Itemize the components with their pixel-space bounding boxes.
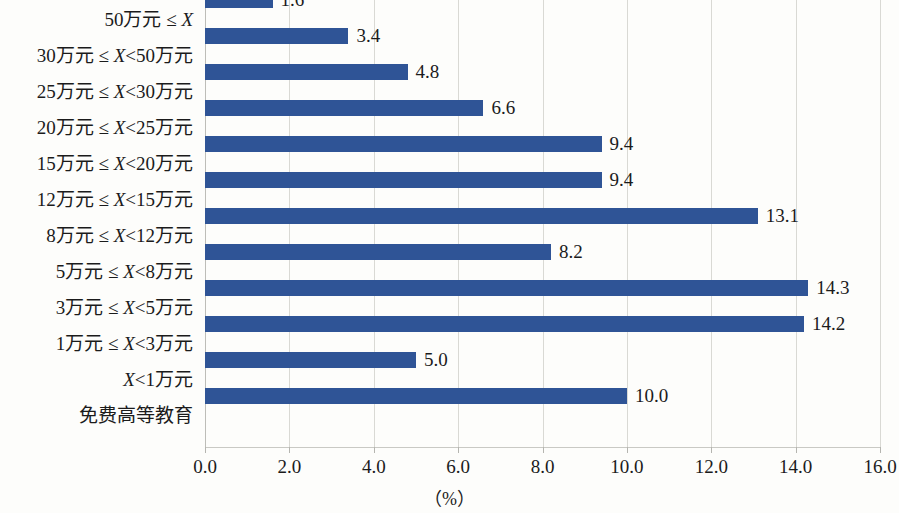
bar-value-label: 5.0 xyxy=(424,352,448,368)
bar xyxy=(205,388,627,404)
category-axis: 50万元 ≤ X30万元 ≤ X<50万元25万元 ≤ X<30万元20万元 ≤… xyxy=(0,0,201,447)
bar-row: 3.4 xyxy=(205,18,880,54)
bar-row: 6.6 xyxy=(205,90,880,126)
category-label: 8万元 ≤ X<12万元 xyxy=(46,218,193,254)
x-axis-tick-label: 0.0 xyxy=(193,456,217,478)
bar-value-label: 8.2 xyxy=(559,244,583,260)
bar-row: 5.0 xyxy=(205,342,880,378)
bar-row: 9.4 xyxy=(205,162,880,198)
bar xyxy=(205,28,348,44)
x-axis-tick xyxy=(627,447,628,453)
bar-row: 1.6 xyxy=(205,0,880,18)
bar xyxy=(205,244,551,260)
x-axis-tick-label: 8.0 xyxy=(531,456,555,478)
bar-chart: 50万元 ≤ X30万元 ≤ X<50万元25万元 ≤ X<30万元20万元 ≤… xyxy=(0,0,899,513)
x-axis-tick-label: 4.0 xyxy=(362,456,386,478)
bar-value-label: 14.2 xyxy=(812,316,845,332)
x-axis-title: （%） xyxy=(0,484,899,510)
bar-value-label: 9.4 xyxy=(610,172,634,188)
bar-row: 8.2 xyxy=(205,234,880,270)
bar-row: 14.2 xyxy=(205,306,880,342)
bar-row: 9.4 xyxy=(205,126,880,162)
x-axis-tick xyxy=(289,447,290,453)
bar-row: 4.8 xyxy=(205,54,880,90)
bar xyxy=(205,352,416,368)
category-label: 20万元 ≤ X<25万元 xyxy=(37,110,193,146)
bar-row: 14.3 xyxy=(205,270,880,306)
category-label: X<1万元 xyxy=(123,362,193,398)
bar xyxy=(205,280,808,296)
bar-value-label: 13.1 xyxy=(766,208,799,224)
category-label: 5万元 ≤ X<8万元 xyxy=(56,254,193,290)
bar-value-label: 10.0 xyxy=(635,388,668,404)
category-label: 15万元 ≤ X<20万元 xyxy=(37,146,193,182)
x-axis-tick-label: 2.0 xyxy=(278,456,302,478)
bar-row: 13.1 xyxy=(205,198,880,234)
bar xyxy=(205,64,408,80)
bar xyxy=(205,136,602,152)
category-label: 3万元 ≤ X<5万元 xyxy=(56,290,193,326)
bar xyxy=(205,316,804,332)
category-label: 25万元 ≤ X<30万元 xyxy=(37,74,193,110)
bar xyxy=(205,100,483,116)
bar-row: 10.0 xyxy=(205,378,880,414)
x-axis-tick xyxy=(711,447,712,453)
bar xyxy=(205,0,273,8)
bar-value-label: 1.6 xyxy=(281,0,305,8)
bar xyxy=(205,172,602,188)
bar-value-label: 4.8 xyxy=(416,64,440,80)
x-axis-tick-label: 10.0 xyxy=(610,456,643,478)
bar-value-label: 3.4 xyxy=(356,28,380,44)
x-axis-tick-label: 16.0 xyxy=(863,456,896,478)
x-axis-tick xyxy=(374,447,375,453)
x-axis-tick xyxy=(880,447,881,453)
bar-value-label: 9.4 xyxy=(610,136,634,152)
x-axis-tick-label: 12.0 xyxy=(695,456,728,478)
x-axis-tick xyxy=(796,447,797,453)
x-axis-tick xyxy=(458,447,459,453)
bar-value-label: 14.3 xyxy=(816,280,849,296)
plot-area: 1.63.44.86.69.49.413.18.214.314.25.010.0 xyxy=(205,0,880,447)
gridline xyxy=(880,0,881,447)
bar-value-label: 6.6 xyxy=(491,100,515,116)
category-label: 30万元 ≤ X<50万元 xyxy=(37,38,193,74)
category-label: 12万元 ≤ X<15万元 xyxy=(37,182,193,218)
category-label: 50万元 ≤ X xyxy=(104,2,193,38)
category-label: 免费高等教育 xyxy=(79,398,193,434)
x-axis-tick-label: 6.0 xyxy=(446,456,470,478)
x-axis-tick xyxy=(205,447,206,453)
bar xyxy=(205,208,758,224)
x-axis-tick xyxy=(543,447,544,453)
category-label: 1万元 ≤ X<3万元 xyxy=(56,326,193,362)
x-axis-tick-label: 14.0 xyxy=(779,456,812,478)
